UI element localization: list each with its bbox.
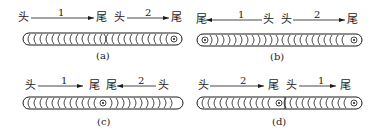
label-d-seg-2: 1	[318, 76, 324, 86]
crater-dot-a	[173, 38, 175, 40]
weld-sequence-diagram	[0, 0, 379, 137]
panel-b	[197, 20, 362, 46]
label-a-seg-1: 1	[58, 8, 64, 18]
crater-dot-d-center	[278, 102, 280, 104]
label-a-head-2: 头	[114, 12, 125, 23]
label-a-seg-2: 2	[145, 8, 151, 18]
label-a-tail-2: 尾	[171, 12, 182, 23]
panel-d	[197, 86, 362, 109]
label-c-tail-1: 尾	[89, 80, 100, 91]
weld-bead-a	[23, 33, 182, 45]
caption-c: (c)	[97, 117, 110, 127]
ripple-marks-d	[202, 98, 346, 108]
label-c-head-2: 头	[158, 80, 169, 91]
label-d-seg-1: 2	[240, 76, 246, 86]
label-c-seg-2: 2	[138, 76, 144, 86]
crater-dot-b-right	[353, 39, 355, 41]
label-d-tail-1: 尾	[268, 80, 279, 91]
label-c-seg-1: 1	[61, 76, 67, 86]
ripple-marks-a	[28, 34, 168, 44]
label-d-head-2: 头	[286, 80, 297, 91]
label-b-tail-2: 尾	[347, 14, 358, 25]
label-a-head-1: 头	[18, 12, 29, 23]
label-c-tail-2: 尾	[106, 80, 117, 91]
label-c-head-1: 头	[25, 80, 36, 91]
crater-dot-b-left	[204, 39, 206, 41]
crater-dot-c	[102, 102, 104, 104]
caption-a: (a)	[96, 51, 110, 61]
label-b-tail-1: 尾	[196, 14, 207, 25]
crater-dot-d-right	[353, 102, 355, 104]
label-d-head-1: 头	[198, 80, 209, 91]
caption-b: (b)	[270, 52, 284, 62]
label-b-seg-2: 2	[314, 10, 320, 20]
label-b-head-2: 头	[281, 14, 292, 25]
caption-d: (d)	[272, 117, 286, 127]
label-b-seg-1: 1	[238, 10, 244, 20]
label-d-tail-2: 尾	[340, 80, 351, 91]
label-b-head-1: 头	[263, 14, 274, 25]
label-a-tail-1: 尾	[96, 12, 107, 23]
ripple-marks-b	[210, 35, 344, 45]
